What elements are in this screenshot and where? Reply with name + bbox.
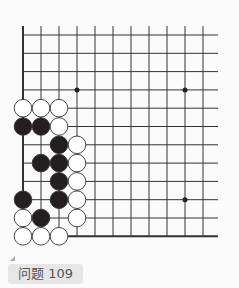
white-stone bbox=[14, 99, 32, 117]
black-stone bbox=[32, 154, 50, 172]
star-point bbox=[75, 87, 80, 92]
black-stone bbox=[50, 136, 68, 154]
star-point bbox=[183, 87, 188, 92]
black-stone bbox=[50, 173, 68, 191]
white-stone bbox=[32, 99, 50, 117]
white-stone bbox=[68, 209, 86, 227]
problem-caption: 问题 109 bbox=[8, 264, 83, 284]
white-stone bbox=[14, 228, 32, 246]
black-stone bbox=[14, 118, 32, 136]
corner-mark-icon bbox=[10, 256, 15, 261]
white-stone bbox=[50, 99, 68, 117]
black-stone bbox=[50, 191, 68, 209]
white-stone bbox=[68, 173, 86, 191]
star-point bbox=[183, 197, 188, 202]
white-stone bbox=[14, 209, 32, 227]
white-stone bbox=[68, 154, 86, 172]
white-stone bbox=[68, 136, 86, 154]
white-stone bbox=[32, 228, 50, 246]
white-stone bbox=[68, 191, 86, 209]
black-stone bbox=[32, 118, 50, 136]
black-stone bbox=[32, 209, 50, 227]
go-board bbox=[0, 0, 239, 260]
white-stone bbox=[50, 228, 68, 246]
black-stone bbox=[14, 191, 32, 209]
white-stone bbox=[50, 118, 68, 136]
black-stone bbox=[50, 154, 68, 172]
